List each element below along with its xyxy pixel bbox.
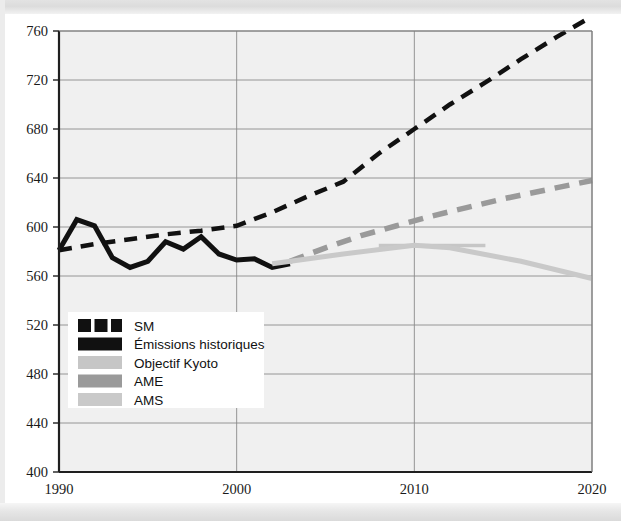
y-tick-label: 560 [26,268,48,284]
y-axis-ticks: 400440480520560600640680720760 [26,23,59,480]
legend-swatch [78,393,122,406]
legend-swatch [78,338,122,351]
legend-swatch [78,375,122,388]
x-tick-label: 2020 [578,481,607,497]
legend-swatch-dash [111,319,122,332]
y-tick-label: 440 [26,415,48,431]
y-tick-label: 400 [26,464,48,480]
x-tick-label: 2010 [400,481,429,497]
y-tick-label: 640 [26,170,48,186]
y-tick-label: 480 [26,366,48,382]
legend-label: SM [134,319,154,334]
y-tick-label: 600 [26,219,48,235]
y-tick-label: 760 [26,23,48,39]
legend-item[interactable]: SM [78,319,154,334]
chart-legend: SMÉmissions historiquesObjectif KyotoAME… [68,312,265,408]
legend-item[interactable]: Objectif Kyoto [78,356,218,371]
x-tick-label: 1990 [45,481,74,497]
legend-item[interactable]: Émissions historiques [78,337,265,352]
legend-item[interactable]: AMS [78,393,163,408]
legend-label: Objectif Kyoto [134,356,218,371]
emissions-line-chart: 400440480520560600640680720760 199020002… [0,0,621,521]
y-tick-label: 680 [26,121,48,137]
legend-label: AMS [134,393,163,408]
legend-swatch-dash [95,319,108,332]
legend-label: Émissions historiques [134,337,265,352]
x-tick-label: 2000 [222,481,251,497]
x-axis-ticks: 1990200020102020 [45,481,607,497]
legend-swatch-dash [78,319,91,332]
legend-item[interactable]: AME [78,374,163,389]
y-tick-label: 720 [26,72,48,88]
y-tick-label: 520 [26,317,48,333]
legend-label: AME [134,374,163,389]
chart-figure: 400440480520560600640680720760 199020002… [0,0,621,521]
legend-swatch [78,356,122,369]
